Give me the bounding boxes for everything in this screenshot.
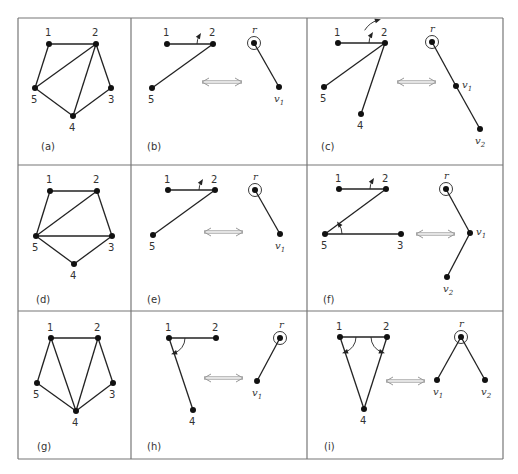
root-label: r (430, 23, 436, 34)
vertex-label: 4 (189, 416, 195, 427)
vertex-label: 5 (33, 389, 39, 400)
edge-2-3 (96, 44, 111, 88)
vertex-label: 2 (212, 322, 218, 333)
vertex-label: 5 (31, 94, 37, 105)
vertex-label: 4 (69, 122, 75, 133)
vertex-label: 4 (70, 270, 76, 281)
vertex-3 (108, 85, 114, 91)
panel-i: 124rv1v2(i) (324, 318, 492, 452)
double-arrow-icon (204, 228, 243, 236)
vertex-4 (73, 408, 79, 414)
tree-root-node (277, 335, 283, 341)
root-label: r (253, 171, 259, 182)
tree-node-label: v2 (475, 135, 486, 149)
vertex-2 (95, 335, 101, 341)
tree-root-node (429, 39, 435, 45)
angle-arrowhead-icon (342, 349, 348, 354)
edge-2-4 (73, 44, 96, 116)
vertex-label: 1 (336, 321, 342, 332)
edge-2-4 (76, 338, 98, 411)
root-label: r (252, 24, 258, 35)
edge-2-5 (153, 190, 215, 235)
vertex-2 (213, 335, 219, 341)
vertex-1 (164, 41, 170, 47)
vertex-label: 4 (360, 415, 366, 426)
tree-node-label: v1 (275, 240, 285, 254)
vertex-2 (210, 41, 216, 47)
vertex-2 (94, 188, 100, 194)
vertex-5 (149, 85, 155, 91)
angle-arrowhead-icon (378, 349, 384, 354)
angle-arrowhead-icon (196, 33, 201, 39)
angle-arrowhead-icon (368, 32, 373, 38)
tree-edge-r-v1 (437, 337, 461, 380)
angle-arrowhead-icon (369, 178, 374, 184)
tree-edge-r-v1 (257, 338, 280, 381)
edge-4-5 (37, 383, 76, 411)
tree-node-v1 (277, 231, 283, 237)
root-label: r (279, 319, 285, 330)
tree-root-node (458, 334, 464, 340)
vertex-label: 2 (382, 173, 388, 184)
tree-node-label: v1 (274, 93, 284, 107)
tree-edge-r-v1 (254, 43, 279, 87)
panel-caption: (i) (324, 441, 335, 452)
tree-node-v1 (434, 377, 440, 383)
vertex-label: 5 (148, 94, 154, 105)
root-label: r (459, 318, 465, 329)
vertex-label: 2 (94, 322, 100, 333)
double-arrow-icon (386, 377, 425, 385)
vertex-5 (150, 232, 156, 238)
edge-1-5 (37, 338, 51, 383)
vertex-3 (109, 233, 115, 239)
double-arrow-icon (204, 374, 243, 382)
edge-4-5 (35, 88, 73, 116)
tree-root-node (251, 40, 257, 46)
vertex-3 (398, 231, 404, 237)
angle-arrowhead-icon (171, 350, 177, 355)
vertex-label: 1 (335, 173, 341, 184)
edge-3-4 (74, 236, 112, 264)
tree-node-v1 (254, 378, 260, 384)
tree-node-v1 (276, 84, 282, 90)
tree-root-node (252, 187, 258, 193)
vertex-2 (383, 186, 389, 192)
vertex-1 (47, 188, 53, 194)
panel-caption: (h) (147, 441, 161, 452)
vertex-4 (358, 111, 364, 117)
panel-caption: (e) (147, 294, 161, 305)
rooted-tree: rv1 (252, 319, 287, 401)
edge-2-5 (35, 44, 96, 88)
vertex-label: 1 (47, 322, 53, 333)
vertex-4 (361, 406, 367, 412)
tree-node-v1 (453, 83, 459, 89)
tree-node-label: v1 (462, 79, 472, 93)
vertex-2 (384, 334, 390, 340)
vertex-5 (322, 231, 328, 237)
vertex-label: 5 (149, 241, 155, 252)
double-arrow-icon (416, 230, 455, 238)
vertex-label: 1 (334, 27, 340, 38)
panel-c: 1254rv1v2(c) (320, 19, 486, 152)
vertex-1 (48, 335, 54, 341)
tree-node-v2 (482, 377, 488, 383)
tree-node-label: v2 (481, 386, 492, 400)
vertex-label: 5 (320, 93, 326, 104)
vertex-label: 2 (211, 174, 217, 185)
vertex-label: 1 (45, 27, 51, 38)
angle-arrowhead-icon (374, 19, 380, 24)
edge-2-4 (361, 43, 385, 114)
edge-2-5 (324, 43, 385, 87)
vertex-label: 2 (383, 321, 389, 332)
vertex-5 (34, 380, 40, 386)
vertex-label: 2 (92, 27, 98, 38)
vertex-1 (336, 186, 342, 192)
vertex-1 (46, 41, 52, 47)
edge-1-4 (51, 338, 76, 411)
vertex-label: 1 (163, 27, 169, 38)
panel-caption: (c) (321, 141, 334, 152)
tree-node-v1 (467, 230, 473, 236)
vertex-1 (335, 40, 341, 46)
edge-2-3 (98, 338, 113, 383)
panel-h: 124rv1(h) (147, 319, 287, 452)
